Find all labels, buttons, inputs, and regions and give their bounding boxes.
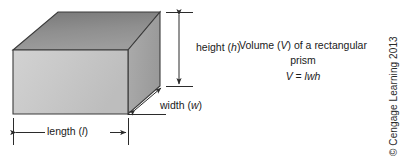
- height-label-text: height (: [196, 41, 231, 53]
- formula-rhs: lwh: [305, 70, 321, 82]
- formula-lhs: V: [286, 70, 293, 82]
- length-label-text: length (: [47, 125, 82, 137]
- caption-line: Volume (V) of a rectangular prism: [239, 39, 367, 66]
- volume-formula: V = lwh: [228, 69, 378, 84]
- copyright-credit: © Cengage Learning 2013: [388, 0, 402, 156]
- caption-pre: Volume (: [239, 39, 280, 51]
- length-label-close: ): [84, 125, 88, 137]
- width-symbol: w: [191, 99, 199, 111]
- caption-variable-v: V: [281, 39, 288, 51]
- volume-caption: Volume (V) of a rectangular prism V = lw…: [228, 38, 378, 85]
- formula-equals: =: [293, 70, 305, 82]
- width-label-close: ): [199, 99, 203, 111]
- height-dimension: [166, 13, 193, 87]
- caption-post: ) of a rectangular prism: [288, 39, 367, 66]
- length-label: length (l): [47, 126, 88, 138]
- width-label: width (w): [160, 100, 202, 112]
- prism-front-face: [13, 50, 128, 114]
- figure-container: height (h) width (w) length (l) Volume (…: [0, 0, 409, 160]
- width-label-text: width (: [160, 99, 191, 111]
